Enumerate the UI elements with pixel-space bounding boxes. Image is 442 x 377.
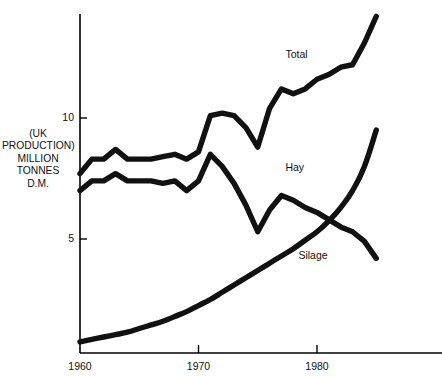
series-line-hay: [80, 154, 376, 258]
series-lines: [80, 16, 376, 341]
x-tick-label-1980: 1980: [297, 360, 337, 373]
y-axis-label: (UK PRODUCTION) MILLION TONNES D.M.: [2, 128, 74, 190]
x-tick-label-1970: 1970: [179, 360, 219, 373]
x-tick-label-1960: 1960: [60, 360, 100, 373]
series-line-total: [80, 16, 376, 173]
y-tick-label-5: 5: [0, 232, 74, 245]
series-annotation-hay: Hay: [285, 161, 304, 174]
series-annotation-silage: Silage: [298, 249, 327, 262]
y-tick-label-10: 10: [0, 111, 74, 124]
series-annotation-total: Total: [285, 48, 307, 61]
chart-container: (UK PRODUCTION) MILLION TONNES D.M. 5101…: [0, 0, 442, 377]
x-axis-ticks: [199, 345, 318, 353]
y-axis-ticks: [80, 118, 87, 239]
series-line-silage: [80, 130, 376, 342]
